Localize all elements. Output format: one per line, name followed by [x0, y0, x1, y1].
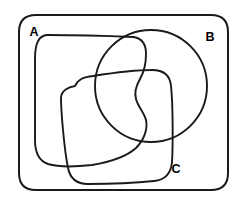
set-a-region: [35, 35, 147, 166]
set-c-label: C: [171, 162, 180, 176]
venn-diagram-svg: A B C: [0, 0, 243, 204]
set-a-label: A: [29, 25, 38, 39]
venn-diagram-canvas: A B C: [0, 0, 243, 204]
set-b-region: [95, 30, 207, 142]
set-b-label: B: [205, 30, 214, 44]
